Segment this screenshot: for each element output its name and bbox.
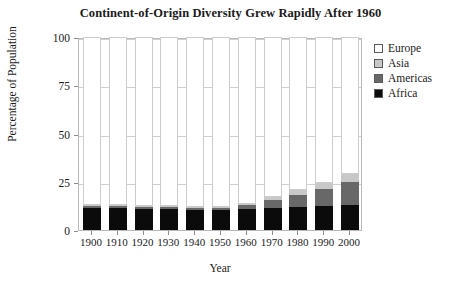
y-tick-label: 25: [30, 177, 70, 189]
legend-swatch-icon: [374, 89, 383, 98]
legend-item[interactable]: Africa: [374, 86, 458, 100]
bar-segment-europe[interactable]: [135, 37, 153, 206]
bar-segment-europe[interactable]: [83, 37, 101, 205]
bar-segment-americas[interactable]: [289, 195, 307, 207]
x-axis-title: Year: [78, 262, 362, 274]
bar-segment-europe[interactable]: [238, 37, 256, 204]
bar-segment-europe[interactable]: [160, 37, 178, 206]
bar-segment-asia[interactable]: [186, 207, 204, 208]
x-tick-mark: [168, 231, 169, 235]
bar-segment-europe[interactable]: [289, 37, 307, 190]
bar-segment-americas[interactable]: [341, 182, 359, 205]
legend-label: Africa: [388, 87, 417, 99]
legend-item[interactable]: Asia: [374, 56, 458, 70]
x-tick-mark: [323, 231, 324, 235]
bar-segment-asia[interactable]: [212, 207, 230, 208]
bar-column[interactable]: [160, 39, 178, 230]
bar-segment-americas[interactable]: [186, 208, 204, 210]
y-axis-title: Percentage of Population: [6, 0, 18, 184]
bar-segment-asia[interactable]: [264, 197, 282, 200]
bar-segment-europe[interactable]: [212, 37, 230, 207]
x-tick-mark: [349, 231, 350, 235]
bar-column[interactable]: [186, 39, 204, 230]
y-tick-mark: [74, 183, 78, 184]
bar-segment-asia[interactable]: [341, 174, 359, 182]
bar-segment-asia[interactable]: [160, 206, 178, 207]
bar-segment-americas[interactable]: [264, 200, 282, 208]
bar-segment-europe[interactable]: [109, 37, 127, 205]
x-tick-mark: [194, 231, 195, 235]
bar-segment-americas[interactable]: [83, 206, 101, 208]
y-tick-mark: [74, 231, 78, 232]
bar-segment-europe[interactable]: [264, 37, 282, 197]
bar-segment-europe[interactable]: [315, 37, 333, 183]
x-tick-mark: [272, 231, 273, 235]
bar-column[interactable]: [289, 39, 307, 230]
bar-segment-europe[interactable]: [341, 37, 359, 174]
legend-label: Americas: [388, 72, 432, 84]
bar-column[interactable]: [341, 39, 359, 230]
y-tick-mark: [74, 38, 78, 39]
bar-segment-africa[interactable]: [160, 209, 178, 230]
bar-segment-africa[interactable]: [289, 207, 307, 230]
y-tick-label: 100: [30, 32, 70, 44]
bar-segment-asia[interactable]: [109, 205, 127, 206]
chart-legend: EuropeAsiaAmericasAfrica: [374, 41, 458, 101]
legend-swatch-icon: [374, 59, 383, 68]
bar-segment-americas[interactable]: [160, 207, 178, 209]
bar-column[interactable]: [264, 39, 282, 230]
bar-column[interactable]: [238, 39, 256, 230]
bar-column[interactable]: [135, 39, 153, 230]
x-tick-mark: [117, 231, 118, 235]
bar-segment-africa[interactable]: [238, 209, 256, 230]
x-tick-mark: [143, 231, 144, 235]
bar-segment-americas[interactable]: [212, 208, 230, 210]
legend-item[interactable]: Europe: [374, 41, 458, 55]
bar-segment-americas[interactable]: [109, 206, 127, 208]
y-tick-mark: [74, 135, 78, 136]
legend-label: Asia: [388, 57, 409, 69]
legend-item[interactable]: Americas: [374, 71, 458, 85]
bar-column[interactable]: [212, 39, 230, 230]
bar-column[interactable]: [315, 39, 333, 230]
bar-segment-africa[interactable]: [135, 209, 153, 230]
x-tick-mark: [246, 231, 247, 235]
bar-column[interactable]: [109, 39, 127, 230]
bar-segment-asia[interactable]: [83, 205, 101, 206]
x-tick-mark: [220, 231, 221, 235]
legend-label: Europe: [388, 42, 421, 54]
bar-segment-africa[interactable]: [186, 210, 204, 230]
bar-segment-asia[interactable]: [315, 183, 333, 189]
legend-swatch-icon: [374, 44, 383, 53]
bar-series-group: [79, 39, 361, 230]
bar-segment-americas[interactable]: [315, 189, 333, 206]
plot-area: [78, 38, 362, 231]
y-tick-label: 50: [30, 129, 70, 141]
legend-swatch-icon: [374, 74, 383, 83]
bar-segment-europe[interactable]: [186, 37, 204, 207]
x-tick-label: 2000: [329, 236, 369, 248]
bar-segment-americas[interactable]: [135, 207, 153, 209]
chart-title: Continent-of-Origin Diversity Grew Rapid…: [0, 6, 461, 21]
chart-page: Continent-of-Origin Diversity Grew Rapid…: [0, 0, 461, 291]
bar-segment-asia[interactable]: [289, 190, 307, 195]
bar-segment-americas[interactable]: [238, 205, 256, 209]
y-tick-mark: [74, 86, 78, 87]
bar-segment-asia[interactable]: [238, 204, 256, 205]
bar-column[interactable]: [83, 39, 101, 230]
y-tick-label: 0: [30, 225, 70, 237]
bar-segment-asia[interactable]: [135, 206, 153, 207]
x-tick-mark: [297, 231, 298, 235]
bar-segment-africa[interactable]: [109, 208, 127, 230]
bar-segment-africa[interactable]: [341, 205, 359, 230]
bar-segment-africa[interactable]: [315, 206, 333, 230]
bar-segment-africa[interactable]: [264, 208, 282, 230]
bar-segment-africa[interactable]: [83, 208, 101, 230]
y-tick-label: 75: [30, 80, 70, 92]
x-tick-mark: [91, 231, 92, 235]
bar-segment-africa[interactable]: [212, 210, 230, 230]
